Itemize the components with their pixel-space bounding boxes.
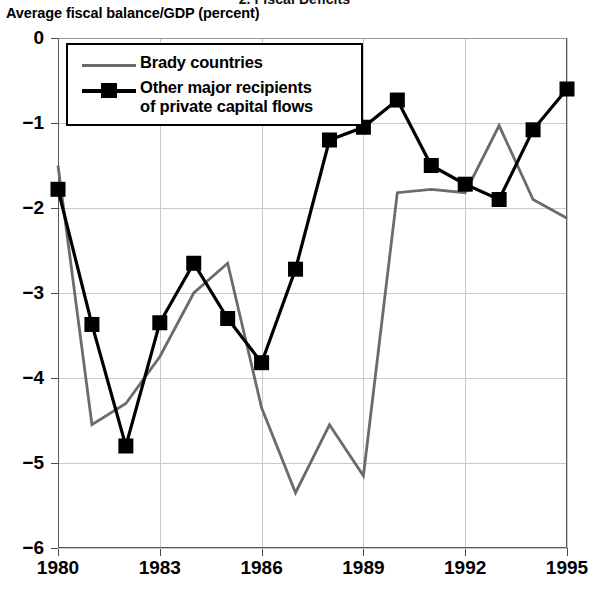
x-axis-tick-mark xyxy=(58,548,59,556)
data-point-marker xyxy=(322,133,337,148)
y-axis-tick-label: −5 xyxy=(0,453,44,472)
data-point-marker xyxy=(84,317,99,332)
series-line-brady-countries xyxy=(58,126,567,493)
figure-container: 2. Fiscal Deficits Average fiscal balanc… xyxy=(0,0,589,596)
y-axis-tick-label: −4 xyxy=(0,368,44,387)
y-axis-tick-mark xyxy=(51,293,58,294)
x-axis-tick-mark xyxy=(160,548,161,556)
x-axis-tick-mark xyxy=(363,548,364,556)
data-point-marker xyxy=(254,355,269,370)
chart-legend: Brady countries Other major recipients o… xyxy=(66,43,363,126)
gridline-vertical xyxy=(567,38,568,548)
data-point-marker xyxy=(118,439,133,454)
data-point-marker xyxy=(220,311,235,326)
legend-item-other-recipients: Other major recipients of private capita… xyxy=(78,78,313,117)
x-axis-tick-label: 1992 xyxy=(430,558,500,577)
data-point-marker xyxy=(458,177,473,192)
legend-item-brady: Brady countries xyxy=(78,53,263,75)
legend-key-line-icon xyxy=(78,55,140,75)
y-axis-tick-mark xyxy=(51,38,58,39)
y-axis-tick-label: 0 xyxy=(0,28,44,47)
y-axis-tick-mark xyxy=(51,548,58,549)
data-point-marker xyxy=(152,315,167,330)
y-axis-tick-label: −3 xyxy=(0,283,44,302)
x-axis-tick-mark xyxy=(465,548,466,556)
data-point-marker xyxy=(560,82,575,97)
data-point-marker xyxy=(51,182,66,197)
x-axis-tick-label: 1980 xyxy=(23,558,93,577)
legend-label-other-recipients: Other major recipients of private capita… xyxy=(140,78,313,117)
y-axis-tick-mark xyxy=(51,208,58,209)
y-axis-title: Average fiscal balance/GDP (percent) xyxy=(6,5,259,21)
x-axis-tick-label: 1995 xyxy=(532,558,589,577)
legend-label-brady: Brady countries xyxy=(140,53,263,72)
x-axis-tick-mark xyxy=(567,548,568,556)
x-axis-tick-label: 1986 xyxy=(227,558,297,577)
legend-key-line-square-icon xyxy=(78,80,140,100)
gridline-horizontal xyxy=(58,548,567,549)
y-axis-tick-mark xyxy=(51,123,58,124)
x-axis-tick-label: 1989 xyxy=(328,558,398,577)
data-point-marker xyxy=(390,93,405,108)
y-axis-tick-label: −6 xyxy=(0,538,44,557)
data-point-marker xyxy=(492,192,507,207)
x-axis-tick-label: 1983 xyxy=(125,558,195,577)
data-point-marker xyxy=(186,256,201,271)
data-point-marker xyxy=(288,262,303,277)
y-axis-tick-mark xyxy=(51,463,58,464)
y-axis-tick-mark xyxy=(51,378,58,379)
y-axis-tick-label: −2 xyxy=(0,198,44,217)
x-axis-tick-mark xyxy=(262,548,263,556)
data-point-marker xyxy=(526,122,541,137)
y-axis-tick-label: −1 xyxy=(0,113,44,132)
data-point-marker xyxy=(424,158,439,173)
